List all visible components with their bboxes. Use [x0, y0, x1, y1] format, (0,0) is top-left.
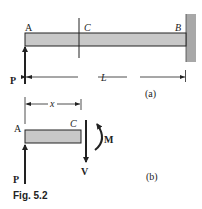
label-load-p: P: [10, 75, 16, 86]
label-part-b: (b): [146, 171, 158, 183]
label-moment-m: M: [104, 134, 114, 145]
beam-diagram: A C B P L (a) A C x M V P (b) Fig. 5.2: [0, 0, 202, 209]
label-part-a: (a): [145, 88, 156, 100]
beam-segment-ac: [25, 130, 81, 143]
label-dimension-l: L: [100, 72, 107, 83]
label-shear-v: V: [81, 166, 89, 177]
beam: [25, 33, 186, 46]
part-b: A C x M V P (b): [13, 97, 158, 185]
part-a: A C B P L (a): [10, 14, 196, 100]
fixed-wall: [186, 14, 196, 62]
label-point-c: C: [84, 22, 91, 33]
moment-arc-m: [95, 124, 102, 150]
label-dimension-x: x: [49, 98, 55, 109]
label-point-c: C: [70, 118, 77, 129]
label-load-p: P: [13, 174, 19, 185]
figure-caption: Fig. 5.2: [13, 190, 48, 201]
label-point-a: A: [25, 22, 33, 33]
label-point-b: B: [175, 22, 181, 33]
label-point-a: A: [14, 123, 22, 134]
